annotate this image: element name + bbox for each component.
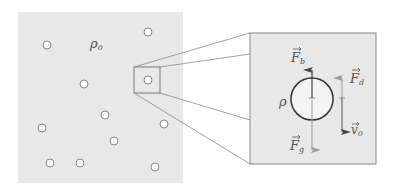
diagram-canvas: ρ0 Fb Fd bbox=[0, 0, 393, 190]
particle bbox=[160, 120, 168, 128]
particle bbox=[38, 124, 46, 132]
particle bbox=[80, 80, 88, 88]
particle bbox=[46, 159, 54, 167]
particle bbox=[101, 111, 109, 119]
particle bbox=[43, 41, 51, 49]
fluid-panel: ρ0 bbox=[18, 12, 183, 183]
particle bbox=[144, 28, 152, 36]
particle bbox=[110, 137, 118, 145]
particle-density-label: ρ bbox=[278, 94, 287, 109]
particle bbox=[76, 159, 84, 167]
fluid-background bbox=[18, 12, 183, 183]
particle bbox=[144, 76, 152, 84]
particle bbox=[151, 163, 159, 171]
inset-panel: Fb Fd Fg v0 ρ bbox=[250, 33, 376, 164]
